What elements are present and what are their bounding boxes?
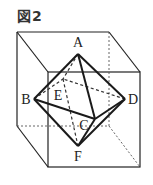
cube-edge-top-left <box>17 32 48 72</box>
cube-edge-bottom-left <box>17 126 48 167</box>
edge-CD <box>95 99 125 119</box>
label-D: D <box>128 92 138 107</box>
cube-edge-top-right <box>109 32 140 72</box>
label-A: A <box>73 35 84 50</box>
label-E: E <box>54 88 63 103</box>
label-F: F <box>74 149 82 164</box>
label-B: B <box>21 92 30 107</box>
cube-edge-bottom-right <box>109 126 140 167</box>
edge-AC <box>78 54 95 119</box>
octahedron-in-cube-diagram: A B C D E F <box>0 0 153 185</box>
edge-AD <box>78 54 125 99</box>
label-C: C <box>79 118 88 133</box>
